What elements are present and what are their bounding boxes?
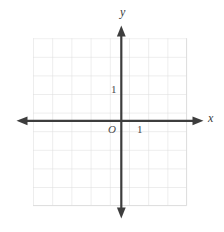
y-axis-label: y — [120, 6, 125, 18]
coordinate-plane-canvas — [0, 0, 224, 232]
y-axis-down-arrow-icon — [117, 208, 126, 219]
coordinate-plane-figure: y x O 1 1 — [0, 0, 224, 232]
x-axis-left-arrow-icon — [17, 116, 28, 125]
x-axis-label: x — [208, 112, 213, 124]
origin-label: O — [108, 124, 116, 135]
x-axis-right-arrow-icon — [193, 116, 204, 125]
grid-lines — [33, 38, 187, 205]
y-axis-up-arrow-icon — [117, 26, 126, 37]
x-unit-tick-label: 1 — [137, 124, 143, 135]
y-unit-tick-label: 1 — [111, 84, 117, 95]
